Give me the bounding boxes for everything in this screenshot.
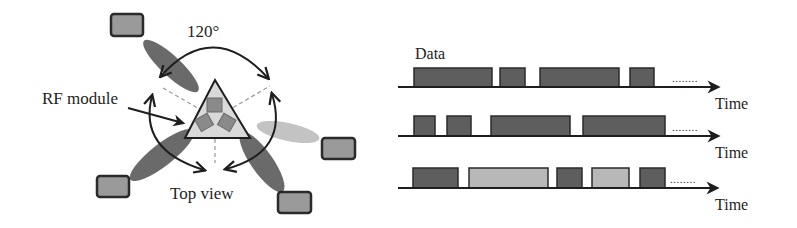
device-right [322, 138, 355, 159]
data-block [583, 116, 665, 136]
top-view-label: Top view [170, 184, 234, 203]
rf-module-pointer-arrow [128, 108, 183, 123]
continuation-dots: ........ [670, 173, 696, 185]
device-bottom-left [97, 176, 129, 197]
timing-diagram: Data ........ Time ........ Time [398, 45, 748, 213]
beam-right [255, 117, 321, 148]
timeline-3: ........ Time [398, 168, 748, 213]
time-label: Time [715, 196, 748, 213]
diagram-canvas: 120° RF module Top view Data ........ Ti… [0, 0, 797, 228]
data-block-light [592, 168, 629, 188]
data-label: Data [415, 45, 445, 62]
device-top-left [111, 14, 143, 36]
rf-module-top [207, 98, 222, 112]
data-block-light [469, 168, 548, 188]
time-label: Time [715, 95, 748, 112]
data-block [630, 68, 654, 87]
continuation-dots: ........ [672, 72, 698, 84]
timeline-1: ........ Time [398, 68, 748, 112]
device-bottom-right [278, 192, 311, 213]
data-block [640, 168, 665, 188]
data-block [557, 168, 582, 188]
data-block [413, 168, 458, 188]
angle-label: 120° [187, 22, 219, 41]
continuation-dots: ........ [672, 121, 698, 133]
data-block [447, 116, 471, 136]
time-label: Time [715, 144, 748, 161]
top-view-diagram: 120° RF module Top view [42, 14, 355, 213]
rf-module-label: RF module [42, 89, 118, 108]
data-block [414, 68, 492, 87]
timeline-2: ........ Time [398, 116, 748, 161]
data-block [491, 116, 570, 136]
data-block [414, 116, 435, 136]
data-block [500, 68, 525, 87]
data-block [540, 68, 619, 87]
